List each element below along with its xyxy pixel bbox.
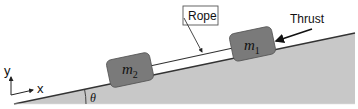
thrust-arrow (276, 29, 312, 41)
axis-y-label: y (4, 63, 11, 78)
inclined-plane-diagram: m2 m1 Rope Thrust y x θ (0, 0, 358, 109)
thrust-label: Thrust (290, 12, 325, 26)
rope-label: Rope (188, 9, 217, 23)
axis-x-label: x (37, 81, 44, 96)
coordinate-axes (11, 77, 33, 95)
angle-label: θ (90, 91, 96, 105)
incline-wedge (14, 33, 355, 104)
